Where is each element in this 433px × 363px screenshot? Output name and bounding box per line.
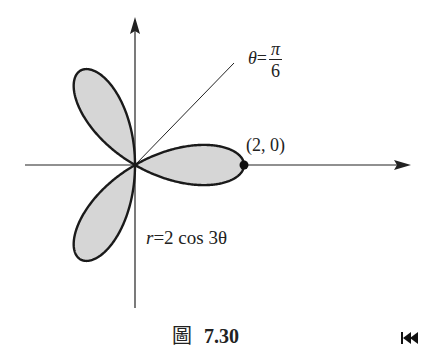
equals-sign: = (257, 48, 267, 68)
theta-symbol: θ (248, 48, 257, 68)
point-label: (2, 0) (246, 136, 285, 154)
skip-back-icon[interactable] (400, 331, 422, 345)
rose-curve-figure (0, 0, 433, 363)
fraction-denominator: 6 (271, 60, 280, 80)
curve-equation-label: r=2 cos 3θ (146, 228, 227, 247)
ray-label: θ=π6 (248, 40, 282, 80)
point-2-0 (240, 161, 249, 170)
fraction-numerator: π (269, 40, 282, 60)
caption-number: 7.30 (204, 325, 239, 347)
equation-rest: =2 cos 3θ (153, 227, 227, 248)
figure-caption: 圖7.30 (172, 320, 239, 349)
fraction-pi-over-6: π6 (269, 40, 282, 80)
caption-figure-char: 圖 (172, 325, 192, 347)
